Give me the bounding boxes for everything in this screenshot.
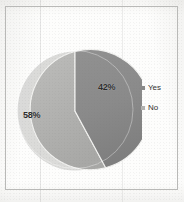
scanned-chart-page: 42% 58% Yes No	[0, 0, 184, 202]
chart-legend: Yes No	[141, 82, 179, 122]
legend-label-yes: Yes	[148, 83, 161, 93]
legend-swatch-no-square-marker-icon	[141, 106, 145, 110]
pie-chart-svg	[10, 38, 142, 180]
legend-label-no: No	[148, 103, 158, 113]
legend-swatch-yes-square-marker-icon	[141, 86, 145, 90]
slice-label-yes: 42%	[98, 82, 115, 92]
pie-chart-plot-area: 42% 58% Yes No	[0, 0, 184, 202]
legend-item-yes[interactable]: Yes	[141, 82, 179, 93]
legend-item-no[interactable]: No	[141, 102, 179, 113]
slice-label-no: 58%	[23, 110, 40, 120]
